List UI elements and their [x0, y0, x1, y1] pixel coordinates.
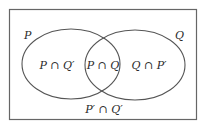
- region-p-only-label: P ∩ Q′: [38, 59, 75, 72]
- region-intersection-label: P ∩ Q: [86, 59, 120, 72]
- region-q-only-label: Q ∩ P′: [131, 59, 167, 72]
- set-q-label: Q: [175, 29, 184, 42]
- venn-diagram: P Q P ∩ Q′ P ∩ Q Q ∩ P′ P′ ∩ Q′: [0, 0, 207, 126]
- set-p-label: P: [23, 29, 32, 42]
- region-outside-label: P′ ∩ Q′: [84, 103, 123, 116]
